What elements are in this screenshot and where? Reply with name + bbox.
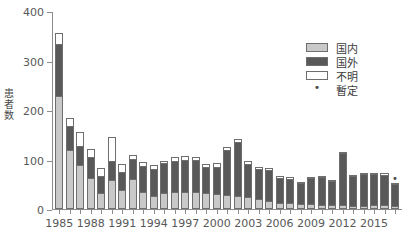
x-tick-mark [154, 210, 155, 214]
segment-foreign [160, 163, 168, 193]
segment-domestic [234, 196, 242, 209]
segment-domestic [97, 193, 105, 209]
bar-2010[interactable] [318, 176, 326, 209]
segment-domestic [87, 178, 95, 209]
segment-foreign [360, 174, 368, 205]
x-tick-label: 2009 [297, 217, 325, 230]
bar-2002[interactable] [234, 139, 242, 209]
segment-foreign [55, 44, 63, 96]
bar-2005[interactable] [265, 168, 273, 209]
bar-2015[interactable] [370, 173, 378, 209]
segment-domestic [118, 190, 126, 209]
segment-foreign [223, 150, 231, 196]
segment-domestic [150, 196, 158, 209]
segment-domestic [328, 205, 336, 209]
y-tick-label: 300 [23, 55, 44, 68]
bar-1990[interactable] [108, 137, 116, 209]
legend-item-foreign: 国外 [306, 55, 392, 68]
segment-foreign [97, 176, 105, 192]
bar-2011[interactable] [328, 180, 336, 209]
y-axis-title-char-1: 患 [2, 88, 16, 99]
bar-1987[interactable] [76, 132, 84, 209]
segment-domestic [108, 180, 116, 209]
segment-foreign [234, 142, 242, 195]
bar-1999[interactable] [202, 164, 210, 209]
bar-1985[interactable] [55, 33, 63, 209]
segment-domestic [286, 203, 294, 209]
bar-1998[interactable] [192, 157, 200, 209]
segment-domestic [55, 96, 63, 209]
segment-foreign [349, 176, 357, 206]
segment-domestic [129, 179, 137, 209]
x-tick-mark [259, 210, 260, 214]
y-axis-title: 患 者 数 [2, 88, 16, 121]
x-tick-mark [343, 210, 344, 214]
segment-foreign [380, 175, 388, 205]
x-tick-mark [248, 210, 249, 214]
bar-1991[interactable] [118, 164, 126, 209]
x-tick-mark [227, 210, 228, 214]
x-tick-mark [196, 210, 197, 214]
segment-domestic [192, 192, 200, 209]
segment-unknown [87, 149, 95, 157]
bar-1989[interactable] [97, 168, 105, 209]
bar-1996[interactable] [171, 157, 179, 209]
x-tick-mark [290, 210, 291, 214]
bar-2003[interactable] [244, 161, 252, 209]
segment-foreign [391, 184, 399, 206]
segment-foreign [66, 126, 74, 150]
y-tick-mark [47, 62, 52, 63]
bar-1986[interactable] [66, 118, 74, 209]
bar-1993[interactable] [139, 162, 147, 209]
x-tick-mark [374, 210, 375, 214]
bar-1995[interactable] [160, 161, 168, 209]
segment-foreign [318, 177, 326, 204]
x-tick-mark [217, 210, 218, 214]
x-tick-mark [59, 210, 60, 214]
segment-foreign [129, 159, 137, 180]
bar-2009[interactable] [307, 177, 315, 209]
y-tick-label: 0 [37, 204, 44, 217]
x-tick-mark [122, 210, 123, 214]
foreign-swatch-icon [306, 57, 328, 66]
legend-label-provisional: 暫定 [336, 82, 358, 98]
bar-2001[interactable] [223, 147, 231, 209]
bar-2006[interactable] [276, 176, 284, 209]
bar-1988[interactable] [87, 149, 95, 209]
provisional-marker: • [392, 176, 398, 182]
segment-domestic [276, 203, 284, 209]
x-tick-mark [143, 210, 144, 214]
x-tick-mark [395, 210, 396, 214]
bar-2008[interactable] [297, 182, 305, 209]
bar-1997[interactable] [181, 156, 189, 209]
segment-foreign [255, 169, 263, 199]
segment-domestic [181, 192, 189, 209]
bar-2000[interactable] [213, 163, 221, 209]
x-tick-mark [175, 210, 176, 214]
y-tick-mark [47, 161, 52, 162]
y-tick-label: 200 [23, 105, 44, 118]
segment-domestic [360, 206, 368, 209]
x-tick-mark [70, 210, 71, 214]
segment-domestic [213, 194, 221, 209]
chart-legend: 国内 国外 不明 • 暫定 [306, 41, 392, 97]
bar-1994[interactable] [150, 165, 158, 209]
segment-domestic [202, 193, 210, 209]
segment-domestic [139, 192, 147, 209]
x-tick-mark [206, 210, 207, 214]
bar-2013[interactable] [349, 175, 357, 209]
segment-domestic [244, 197, 252, 209]
x-tick-label: 2006 [266, 217, 294, 230]
segment-domestic [66, 150, 74, 209]
bar-2017[interactable]: • [391, 183, 399, 209]
segment-foreign [286, 179, 294, 203]
bar-2004[interactable] [255, 167, 263, 209]
x-tick-label: 1985 [45, 217, 73, 230]
bar-2007[interactable] [286, 177, 294, 209]
segment-domestic [265, 201, 273, 209]
bar-2016[interactable] [380, 173, 388, 209]
bar-1992[interactable] [129, 155, 137, 209]
bar-2014[interactable] [360, 173, 368, 209]
bar-2012[interactable] [339, 152, 347, 209]
segment-domestic [160, 193, 168, 209]
